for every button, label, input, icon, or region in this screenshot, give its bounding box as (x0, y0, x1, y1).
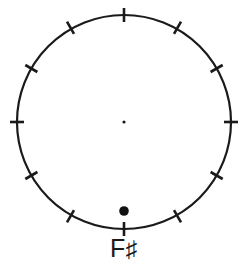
tick-mark-4-oclock (211, 172, 223, 179)
pitch-circle-diagram: F♯ (0, 0, 247, 278)
sharp-accidental-icon: ♯ (125, 236, 137, 262)
selected-pitch-marker-dot[interactable] (119, 206, 129, 216)
pitch-label-letter: F (110, 234, 125, 262)
tick-mark-8-oclock (25, 172, 37, 179)
tick-mark-2-oclock (211, 65, 223, 72)
center-dot (122, 120, 125, 123)
tick-mark-10-oclock (25, 65, 37, 72)
pitch-label: F♯ (0, 234, 247, 263)
